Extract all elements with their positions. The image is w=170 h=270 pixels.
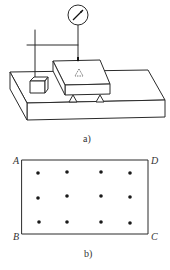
measurement-point (99, 170, 103, 174)
corner-label-c: C (151, 231, 158, 242)
measurement-point (65, 170, 69, 174)
measurement-point (128, 195, 132, 199)
diagram-canvas: a) A D C B b) (0, 0, 170, 270)
panel-b: A D C B b) (12, 155, 159, 260)
measured-plate-front (65, 84, 110, 95)
corner-label-b: B (13, 231, 19, 242)
measurement-point (128, 171, 132, 175)
corner-label-d: D (150, 155, 159, 166)
measurement-point (36, 171, 40, 175)
measurement-point (65, 194, 69, 198)
measurement-points (36, 170, 132, 225)
measurement-point (128, 221, 132, 225)
measurement-point (36, 196, 40, 200)
dial-gauge (68, 5, 88, 61)
panel-a-caption: a) (83, 133, 91, 145)
measurement-point (65, 220, 69, 224)
measurement-point (99, 194, 103, 198)
panel-b-caption: b) (84, 248, 92, 260)
surface-plate-front (27, 100, 165, 120)
corner-label-a: A (12, 155, 20, 166)
gauge-block (30, 77, 48, 93)
figure: a) A D C B b) (0, 0, 170, 270)
measurement-point (37, 220, 41, 224)
panel-a: a) (10, 5, 165, 145)
gauge-block-front (30, 81, 45, 93)
measurement-point (99, 220, 103, 224)
